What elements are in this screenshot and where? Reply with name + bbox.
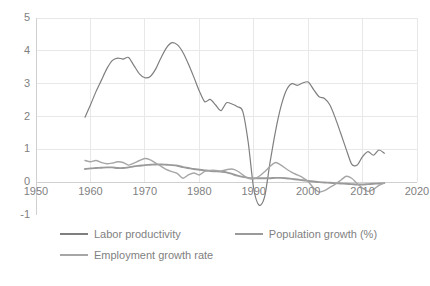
legend-swatch-employment-growth xyxy=(60,254,88,256)
x-tick-label-2020: 2020 xyxy=(397,186,430,197)
legend-item-labor-productivity[interactable]: Labor productivity xyxy=(60,228,181,240)
x-tick-label-2010: 2010 xyxy=(343,186,383,197)
y-tick-label-neg1: -1 xyxy=(0,209,30,220)
legend-row-2: Employment growth rate xyxy=(60,249,430,261)
legend-item-population-growth[interactable]: Population growth (%) xyxy=(235,228,377,240)
x-tick-label-2000: 2000 xyxy=(288,186,328,197)
chart-container: 543210-1 1950196019701980199020002010202… xyxy=(0,0,430,286)
y-tick-label-2: 2 xyxy=(0,111,30,122)
legend-swatch-labor-productivity xyxy=(60,233,88,235)
legend-label-employment-growth: Employment growth rate xyxy=(94,249,213,261)
y-tick-label-4: 4 xyxy=(0,45,30,56)
y-tick-label-5: 5 xyxy=(0,12,30,23)
chart-legend: Labor productivity Population growth (%)… xyxy=(60,228,430,270)
legend-item-employment-growth[interactable]: Employment growth rate xyxy=(60,249,213,261)
x-tick-label-1970: 1970 xyxy=(125,186,165,197)
x-tick-label-1950: 1950 xyxy=(16,186,56,197)
x-tick-label-1960: 1960 xyxy=(70,186,110,197)
legend-row-1: Labor productivity Population growth (%) xyxy=(60,228,430,240)
x-tick-label-1990: 1990 xyxy=(234,186,274,197)
legend-label-labor-productivity: Labor productivity xyxy=(94,228,181,240)
x-tick-label-1980: 1980 xyxy=(179,186,219,197)
gridlines xyxy=(36,18,417,182)
legend-swatch-population-growth xyxy=(235,233,263,236)
y-tick-label-3: 3 xyxy=(0,78,30,89)
legend-label-population-growth: Population growth (%) xyxy=(269,228,377,240)
y-tick-label-1: 1 xyxy=(0,143,30,154)
series-lines xyxy=(85,43,384,206)
